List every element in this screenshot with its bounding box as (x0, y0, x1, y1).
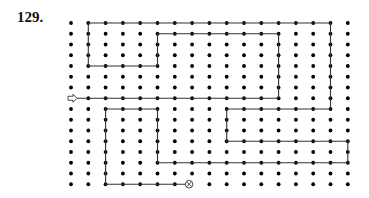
grid-dot (190, 75, 194, 79)
grid-dot (311, 129, 315, 133)
grid-dot (277, 150, 281, 154)
grid-dot (173, 172, 177, 176)
grid-dot (259, 64, 263, 68)
grid-dot (121, 150, 125, 154)
grid-dot (346, 64, 350, 68)
grid-dot (294, 118, 298, 122)
grid-dot (259, 86, 263, 90)
grid-dots (69, 21, 350, 186)
grid-dot (190, 150, 194, 154)
grid-dot (329, 172, 333, 176)
grid-dot (69, 107, 73, 111)
grid-dot (329, 150, 333, 154)
grid-dot (294, 32, 298, 36)
grid-dot (86, 86, 90, 90)
grid-dot (86, 161, 90, 165)
grid-dot (138, 161, 142, 165)
grid-dot (311, 75, 315, 79)
grid-dot (121, 32, 125, 36)
grid-dot (86, 172, 90, 176)
grid-dot (190, 43, 194, 47)
grid-dot (121, 86, 125, 90)
grid-dot (225, 75, 229, 79)
grid-dot (69, 172, 73, 176)
grid-dot (294, 75, 298, 79)
grid-dot (104, 86, 108, 90)
grid-dot (173, 53, 177, 57)
grid-dot (190, 107, 194, 111)
grid-dot (173, 75, 177, 79)
grid-dot (225, 43, 229, 47)
grid-dot (138, 172, 142, 176)
grid-dot (190, 129, 194, 133)
grid-dot (69, 43, 73, 47)
grid-dot (242, 150, 246, 154)
grid-dot (86, 118, 90, 122)
grid-dot (69, 182, 73, 186)
grid-dot (121, 139, 125, 143)
grid-dot (225, 172, 229, 176)
grid-dot (242, 182, 246, 186)
grid-dot (277, 172, 281, 176)
grid-dot (346, 43, 350, 47)
grid-dot (173, 118, 177, 122)
grid-dot (242, 118, 246, 122)
grid-dot (173, 150, 177, 154)
grid-dot (208, 107, 212, 111)
grid-dot (121, 75, 125, 79)
grid-dot (190, 172, 194, 176)
grid-dot (138, 75, 142, 79)
grid-dot (311, 96, 315, 100)
grid-dot (259, 43, 263, 47)
grid-dot (138, 86, 142, 90)
grid-dot (225, 182, 229, 186)
grid-dot (104, 43, 108, 47)
grid-dot (156, 75, 160, 79)
grid-dot (259, 129, 263, 133)
grid-dot (311, 172, 315, 176)
grid-dot (311, 32, 315, 36)
grid-dot (104, 75, 108, 79)
grid-dot (294, 96, 298, 100)
grid-dot (208, 182, 212, 186)
grid-dot (121, 43, 125, 47)
grid-dot (294, 64, 298, 68)
grid-dot (121, 118, 125, 122)
grid-dot (311, 43, 315, 47)
grid-dot (208, 172, 212, 176)
grid-dot (346, 75, 350, 79)
grid-dot (225, 64, 229, 68)
grid-dot (311, 64, 315, 68)
grid-dot (69, 150, 73, 154)
grid-dot (329, 182, 333, 186)
grid-dot (242, 53, 246, 57)
grid-dot (346, 129, 350, 133)
grid-dot (69, 32, 73, 36)
grid-dot (208, 75, 212, 79)
grid-dot (121, 129, 125, 133)
grid-dot (104, 53, 108, 57)
grid-dot (69, 21, 73, 25)
grid-dot (294, 129, 298, 133)
grid-dot (329, 118, 333, 122)
grid-dot (346, 21, 350, 25)
grid-dot (242, 86, 246, 90)
grid-dot (294, 86, 298, 90)
grid-dot (311, 182, 315, 186)
grid-dot (138, 53, 142, 57)
grid-dot (346, 172, 350, 176)
grid-dot (69, 64, 73, 68)
grid-dot (208, 64, 212, 68)
grid-dot (242, 64, 246, 68)
grid-dot (156, 172, 160, 176)
grid-dot (69, 75, 73, 79)
grid-dot (329, 129, 333, 133)
grid-dot (86, 107, 90, 111)
grid-dot (277, 129, 281, 133)
grid-dot (208, 43, 212, 47)
grid-dot (242, 172, 246, 176)
grid-dot (86, 150, 90, 154)
grid-dot (346, 107, 350, 111)
grid-dot (225, 53, 229, 57)
grid-dot (121, 53, 125, 57)
